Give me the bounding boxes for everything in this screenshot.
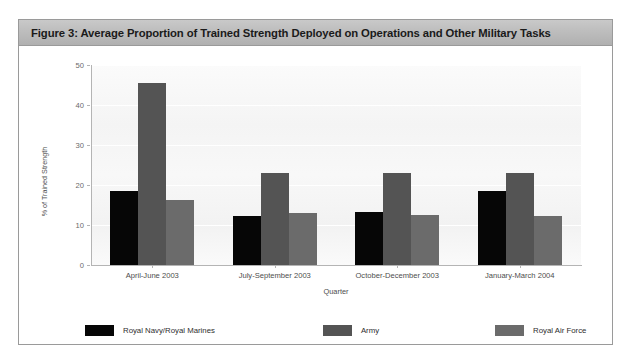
- bar: [506, 173, 534, 265]
- bar: [110, 191, 138, 265]
- bar-group: [91, 65, 214, 265]
- legend-label: Royal Navy/Royal Marines: [123, 326, 215, 335]
- bar: [289, 213, 317, 265]
- bar-group: [336, 65, 459, 265]
- y-tick-label: 0: [44, 261, 84, 270]
- legend-label: Royal Air Force: [533, 326, 586, 335]
- y-tick-label: 10: [44, 221, 84, 230]
- page-title: Figure 3: Average Proportion of Trained …: [19, 27, 551, 39]
- y-tick-label: 30: [44, 141, 84, 150]
- x-tick-mark: [397, 265, 398, 268]
- x-axis-line: [91, 265, 582, 266]
- y-tick-mark: [87, 105, 90, 106]
- y-tick-mark: [87, 225, 90, 226]
- legend-swatch: [495, 325, 524, 336]
- x-tick-mark: [520, 265, 521, 268]
- chart-legend: Royal Navy/Royal MarinesArmyRoyal Air Fo…: [49, 325, 589, 336]
- chart-area: % of Trained Strength 01020304050 April-…: [19, 47, 612, 344]
- y-tick-mark: [87, 65, 90, 66]
- y-tick-mark: [87, 145, 90, 146]
- bar: [355, 212, 383, 265]
- bar: [138, 83, 166, 265]
- y-tick-label: 50: [44, 61, 84, 70]
- x-axis-title: Quarter: [91, 287, 581, 296]
- bar: [166, 200, 194, 265]
- bar: [534, 216, 562, 265]
- bar: [261, 173, 289, 265]
- legend-swatch: [323, 325, 352, 336]
- legend-item: Royal Navy/Royal Marines: [85, 325, 215, 336]
- legend-item: Royal Air Force: [495, 325, 586, 336]
- bar: [478, 191, 506, 265]
- x-tick-mark: [152, 265, 153, 268]
- y-tick-mark: [87, 185, 90, 186]
- figure-container: Figure 3: Average Proportion of Trained …: [18, 19, 613, 345]
- legend-swatch: [85, 325, 114, 336]
- x-tick-label: January-March 2004: [445, 271, 595, 280]
- x-tick-mark: [275, 265, 276, 268]
- bar-group: [214, 65, 337, 265]
- y-tick-label: 40: [44, 101, 84, 110]
- y-tick-label: 20: [44, 181, 84, 190]
- figure-title-band: Figure 3: Average Proportion of Trained …: [19, 20, 612, 46]
- legend-item: Army: [323, 325, 379, 336]
- bar: [233, 216, 261, 265]
- bar: [411, 215, 439, 265]
- y-tick-mark: [87, 265, 90, 266]
- bar-group: [459, 65, 582, 265]
- legend-label: Army: [361, 326, 379, 335]
- bar: [383, 173, 411, 265]
